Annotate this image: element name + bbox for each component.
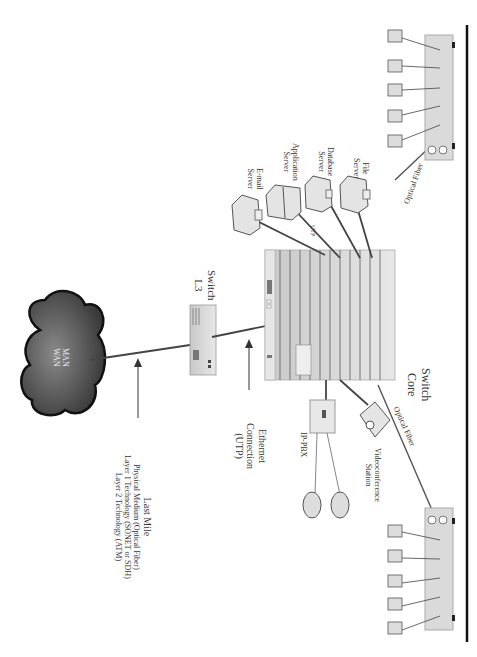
workstation-icon	[388, 598, 402, 610]
file-server-label: File Server	[352, 158, 370, 179]
ethernet-label-line1: Ethernet	[257, 423, 269, 469]
workstations-top	[388, 30, 402, 147]
file-server-icon	[340, 176, 370, 213]
switch-core-label-line2: Core	[404, 368, 418, 401]
switch-core-icon	[265, 250, 395, 380]
application-server-label-line1: Application	[291, 143, 300, 181]
access-switch-top-icon	[425, 35, 455, 160]
last-mile-title: Last Mile	[142, 455, 154, 579]
optical-fiber-bottom	[378, 385, 432, 510]
phone-icon	[331, 492, 349, 518]
videoconference-label-line2: Station	[364, 448, 373, 502]
email-server-label-line1: E-mail	[255, 168, 264, 190]
utp-label: UTP	[309, 225, 316, 236]
workstation-icon	[388, 60, 402, 72]
file-server-label-line2: Server	[352, 158, 361, 179]
switch-core-label-line1: Switch	[418, 368, 432, 401]
switch-core-label: Switch Core	[404, 368, 432, 401]
ip-pbx-icon	[310, 400, 335, 433]
workstation-icon	[388, 30, 402, 42]
network-diagram: MAN WAN Last Mile Physical Medium (Optic…	[0, 0, 477, 657]
cloud-label-man: MAN	[61, 348, 70, 367]
ethernet-label-line3: (UTP)	[234, 423, 246, 469]
ethernet-label: Ethernet Connection (UTP)	[234, 423, 269, 469]
workstation-icon	[388, 110, 402, 122]
database-server-label-line2: Server	[317, 147, 326, 176]
workstations-bottom	[388, 525, 402, 634]
ip-pbx-label: IP-PBX	[299, 432, 308, 457]
workstation-icon	[388, 622, 402, 634]
application-server-icon	[266, 185, 301, 220]
switch-l3-icon	[190, 305, 216, 375]
application-server-label: Application Server	[282, 143, 300, 181]
email-server-label-line2: Server	[246, 168, 255, 190]
switch-l3-label-line1: Switch	[205, 270, 218, 301]
switch-l3-label-line2: L3	[193, 270, 206, 301]
email-server-label: E-mail Server	[246, 168, 264, 190]
workstation-icon	[388, 575, 402, 587]
workstation-icon	[388, 525, 402, 537]
cloud-label: MAN WAN	[52, 348, 70, 367]
last-mile-line2: Layer 1 Technology (SONET or SDH)	[123, 455, 132, 579]
database-server-label: Database Server	[317, 147, 335, 176]
cloud-label-wan: WAN	[52, 348, 61, 367]
email-server-icon	[232, 195, 262, 235]
videoconference-label-line1: Videoconference	[373, 448, 382, 502]
workstation-icon	[388, 84, 402, 96]
videoconference-station-icon	[360, 402, 390, 437]
videoconference-label: Videoconference Station	[364, 448, 382, 502]
phone-icon	[303, 492, 321, 518]
workstation-icon	[388, 550, 402, 562]
last-mile-label: Last Mile Physical Medium (Optical Fiber…	[114, 455, 153, 579]
file-server-label-line1: File	[361, 158, 370, 179]
switch-l3-label: Switch L3	[193, 270, 218, 301]
last-mile-line3: Layer 2 Technology (ATM)	[114, 455, 123, 579]
workstation-icon	[388, 135, 402, 147]
database-server-label-line1: Database	[326, 147, 335, 176]
application-server-label-line2: Server	[282, 143, 291, 181]
ethernet-label-line2: Connection	[245, 423, 257, 469]
last-mile-line1: Physical Medium (Optical Fiber)	[132, 455, 141, 579]
diagram-graphics	[0, 0, 477, 657]
database-server-icon	[305, 176, 332, 212]
access-switch-bottom-icon	[425, 508, 455, 630]
